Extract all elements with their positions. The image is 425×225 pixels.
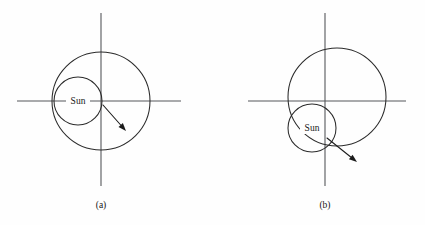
- panel-b-sun-label: Sun: [305, 123, 320, 133]
- panel-a-sun-label: Sun: [71, 96, 86, 106]
- panel-b: Sun (b): [248, 13, 406, 211]
- panel-b-caption: (b): [319, 200, 330, 211]
- panel-a-direction-arrow-shaft: [103, 105, 121, 125]
- panel-b-direction-arrow-shaft: [327, 138, 351, 157]
- orbit-diagram-svg: Sun (a) Sun (b): [0, 0, 425, 225]
- panel-a-caption: (a): [96, 200, 107, 211]
- figure-root: Sun (a) Sun (b): [0, 0, 425, 225]
- panel-a: Sun (a): [17, 13, 181, 211]
